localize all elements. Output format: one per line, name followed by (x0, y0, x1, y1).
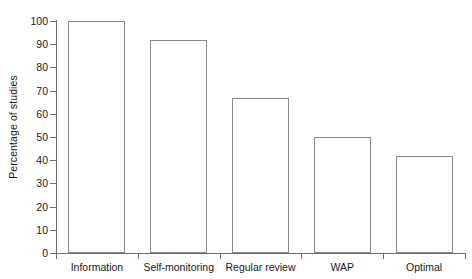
y-axis-tick (50, 207, 56, 208)
y-axis-tick (50, 230, 56, 231)
y-axis-tick-label: 30 (2, 178, 48, 188)
y-axis-tick-label: 100 (2, 16, 48, 26)
bar-self-monitoring (150, 40, 207, 253)
y-axis-tick-label: 20 (2, 202, 48, 212)
y-axis-tick-label: 60 (2, 109, 48, 119)
y-axis-tick (50, 91, 56, 92)
x-axis-tick-label: Optimal (373, 261, 472, 274)
x-axis-tick (56, 253, 57, 259)
y-axis-tick-label: 10 (2, 225, 48, 235)
bar-regular-review (232, 98, 289, 253)
y-axis-tick (50, 114, 56, 115)
y-axis-tick-label: 50 (2, 132, 48, 142)
y-axis-tick (50, 21, 56, 22)
x-axis-tick (465, 253, 466, 259)
y-axis-tick (50, 160, 56, 161)
y-axis-tick (50, 183, 56, 184)
y-axis-tick-label: 70 (2, 86, 48, 96)
y-axis-tick-label: 80 (2, 62, 48, 72)
y-axis-title: Percentage of studies (2, 0, 24, 253)
y-axis-tick (50, 137, 56, 138)
x-axis-tick (220, 253, 221, 259)
bar-chart: Percentage of studies 010203040506070809… (0, 0, 472, 279)
x-axis-tick (383, 253, 384, 259)
y-axis-tick-label: 90 (2, 39, 48, 49)
x-axis-tick (301, 253, 302, 259)
y-axis-tick (50, 67, 56, 68)
y-axis-tick (50, 44, 56, 45)
x-axis-line (56, 253, 465, 254)
bar-optimal (396, 156, 453, 253)
y-axis-tick-label: 0 (2, 248, 48, 258)
bar-wap (314, 137, 371, 253)
y-axis-line (56, 20, 57, 254)
bar-information (68, 21, 125, 253)
x-axis-tick (138, 253, 139, 259)
y-axis-tick-label: 40 (2, 155, 48, 165)
